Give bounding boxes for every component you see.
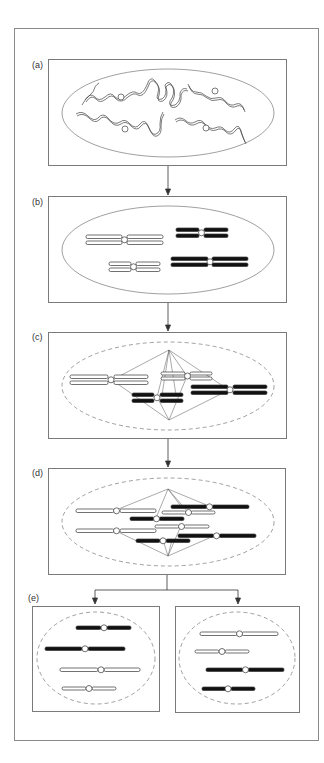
nucleus-b [62, 206, 274, 294]
arrow-b-to-c [166, 303, 171, 331]
nuclear-envelope-d [62, 478, 274, 566]
anaphase-chromatids [76, 504, 256, 544]
daughter-chromosomes-left [45, 625, 140, 692]
chromatin-strands [76, 79, 246, 144]
arrow-c-to-d [166, 439, 171, 467]
prometaphase-chromosomes [70, 372, 267, 403]
arrow-a-to-b [166, 166, 171, 195]
arrow-d-to-e-fork [93, 575, 241, 604]
prophase-chromosomes [86, 228, 248, 272]
mitosis-artwork [0, 0, 324, 763]
spindle-fibers-d [116, 489, 216, 556]
daughter-chromosomes-right [195, 631, 284, 692]
